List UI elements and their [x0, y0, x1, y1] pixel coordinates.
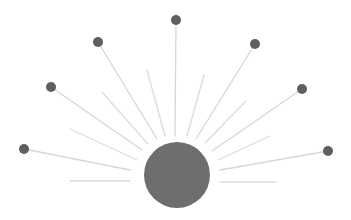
- node-upper-left: [93, 37, 103, 47]
- spoke-far-right: [220, 151, 328, 170]
- spoke-upper-left: [98, 42, 157, 139]
- sunburst-diagram: [0, 0, 351, 220]
- spoke-upper-right: [196, 44, 255, 139]
- sunburst-svg: [0, 0, 351, 220]
- spoke-far-left: [24, 149, 130, 170]
- node-far-left: [19, 144, 29, 154]
- spoke-top: [175, 20, 176, 136]
- node-top: [171, 15, 181, 25]
- ray-r1: [187, 75, 204, 136]
- node-upper-right: [250, 39, 260, 49]
- node-right: [297, 84, 307, 94]
- node-far-right: [323, 146, 333, 156]
- ray-l2: [102, 92, 148, 144]
- node-left: [46, 82, 56, 92]
- hub-circle: [144, 142, 210, 208]
- ray-l3: [70, 129, 137, 160]
- ray-r2: [205, 101, 246, 143]
- ray-r3: [218, 136, 270, 160]
